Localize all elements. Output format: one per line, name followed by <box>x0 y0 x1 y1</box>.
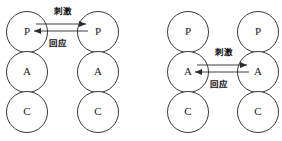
label-child-left: C <box>23 105 30 117</box>
label-adult-right: A <box>94 65 102 77</box>
label-parent-right: P <box>95 25 101 37</box>
label-adult-left: A <box>23 65 31 77</box>
figure-canvas: P A C P A C 刺激 <box>0 0 282 141</box>
label-child-right: C <box>254 105 261 117</box>
ego-state-column-left: P A C <box>7 12 48 133</box>
vector-response-label: 回应 <box>210 79 228 89</box>
ego-state-column-right: P A C <box>78 12 119 133</box>
diagram-adult-to-adult: P A C P A C 刺激 <box>141 0 282 141</box>
label-child-left: C <box>184 105 191 117</box>
vector-response-label: 回应 <box>49 38 67 48</box>
label-parent-left: P <box>185 25 191 37</box>
label-adult-right: A <box>254 65 262 77</box>
vector-stimulus-label: 刺激 <box>214 47 233 57</box>
vector-stimulus: 刺激 <box>197 47 247 69</box>
label-child-right: C <box>94 105 101 117</box>
label-parent-right: P <box>255 25 261 37</box>
vector-stimulus-label: 刺激 <box>53 6 72 16</box>
label-adult-left: A <box>184 65 192 77</box>
label-parent-left: P <box>24 25 30 37</box>
diagram-parent-to-parent: P A C P A C 刺激 <box>0 0 141 141</box>
vector-stimulus: 刺激 <box>36 6 86 28</box>
